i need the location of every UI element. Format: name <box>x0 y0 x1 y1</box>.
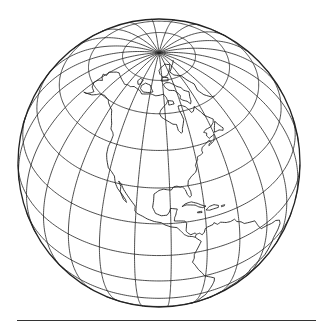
coastline-newfoundland <box>214 121 223 132</box>
coastline-southampton-island <box>168 101 174 106</box>
meridian-line <box>135 53 159 306</box>
meridian-line <box>159 53 267 277</box>
coastline-puerto-rico <box>221 205 224 207</box>
coastline-victoria-island <box>141 83 153 92</box>
meridian-line <box>99 53 159 301</box>
graticule <box>18 19 300 307</box>
coastline-hispaniola <box>206 205 218 211</box>
parallel-line <box>23 116 295 224</box>
parallel-line <box>123 32 196 80</box>
meridian-line <box>68 53 159 290</box>
parallel-line <box>52 257 266 298</box>
parallel-line <box>18 165 300 256</box>
meridian-line <box>159 53 171 307</box>
coastline-banks-island <box>138 78 143 84</box>
coastline-cuba <box>182 202 206 208</box>
globe-map <box>0 0 316 329</box>
meridian-line <box>151 19 159 52</box>
coastlines <box>84 60 280 303</box>
parallel-line <box>89 21 230 114</box>
coastline-jamaica <box>197 211 202 213</box>
horizontal-rule <box>17 320 316 321</box>
parallel-line <box>37 70 281 188</box>
parallel-line <box>59 30 258 150</box>
globe-outline <box>18 19 300 307</box>
coastline-gulf-and-atlantic-coast <box>84 72 214 216</box>
coastline-yucatan-peninsula <box>174 209 196 235</box>
